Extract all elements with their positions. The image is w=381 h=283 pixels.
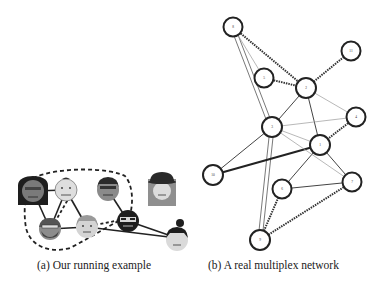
figure-canvas: 8 5 2 11 4 3 1 10 6 7 9	[0, 0, 381, 283]
person-p7-avatar	[117, 210, 139, 232]
network-edges	[213, 27, 356, 240]
svg-text:6: 6	[281, 187, 283, 191]
person-p6-avatar	[76, 215, 98, 238]
person-p5-avatar	[39, 218, 61, 240]
svg-text:8: 8	[232, 25, 234, 29]
svg-text:7: 7	[351, 180, 353, 184]
caption-panel-b: (b) A real multiplex network	[208, 259, 339, 271]
person-p2-avatar	[55, 178, 77, 202]
running-example-graph	[18, 170, 188, 252]
svg-text:3: 3	[271, 125, 273, 129]
svg-text:1: 1	[319, 143, 321, 147]
svg-text:4: 4	[355, 115, 357, 119]
caption-panel-a: (a) Our running example	[37, 259, 151, 271]
network-nodes	[203, 18, 366, 251]
svg-text:5: 5	[263, 76, 265, 80]
svg-text:10: 10	[211, 173, 215, 177]
person-p4-avatar	[148, 172, 176, 206]
multiplex-network-graph: 8 5 2 11 4 3 1 10 6 7 9	[203, 18, 366, 251]
svg-text:9: 9	[259, 238, 261, 242]
svg-text:2: 2	[305, 86, 307, 90]
person-p8-avatar	[166, 219, 188, 251]
person-p3-avatar	[97, 177, 119, 201]
person-p1-avatar	[18, 176, 48, 205]
svg-text:11: 11	[349, 49, 353, 53]
